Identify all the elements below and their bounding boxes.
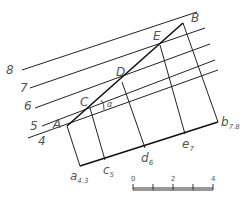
angle-arc xyxy=(101,100,104,110)
contour-label-7: 7 xyxy=(20,81,28,95)
point-label-C: C xyxy=(80,95,89,109)
angle-label: α xyxy=(107,100,113,109)
angle-alpha: α xyxy=(101,100,113,110)
projection-lines xyxy=(67,23,218,166)
projector-d xyxy=(122,82,145,148)
scale-tick-2: 2 xyxy=(171,175,175,183)
contour-line-5 xyxy=(42,60,215,126)
projected-label-c: c5 xyxy=(103,163,115,179)
projected-label-a: a4.3 xyxy=(70,169,89,185)
contour-labels: 87654 xyxy=(6,63,46,148)
projector-b xyxy=(183,23,218,122)
projected-label-d: d6 xyxy=(141,151,154,167)
point-label-E: E xyxy=(153,29,161,43)
contour-label-8: 8 xyxy=(6,63,14,77)
point-label-A: A xyxy=(52,117,61,131)
diagram-canvas: 87654 ACDEB a4.3c5d6e7b7.8 α 024 xyxy=(0,0,246,201)
projected-label-e: e7 xyxy=(182,137,194,153)
contour-label-4: 4 xyxy=(38,134,46,148)
point-label-B: B xyxy=(191,11,199,25)
projector-a xyxy=(67,126,80,166)
scale-bar: 024 xyxy=(131,175,216,190)
contour-label-5: 5 xyxy=(30,119,38,133)
projector-c xyxy=(90,108,105,160)
scale-tick-4: 4 xyxy=(211,175,216,183)
point-label-D: D xyxy=(116,65,125,79)
contour-label-6: 6 xyxy=(24,99,32,113)
scale-tick-0: 0 xyxy=(131,175,135,183)
contour-line-7 xyxy=(30,28,205,88)
contour-line-8 xyxy=(22,12,197,70)
projected-label-b: b7.8 xyxy=(221,115,240,131)
